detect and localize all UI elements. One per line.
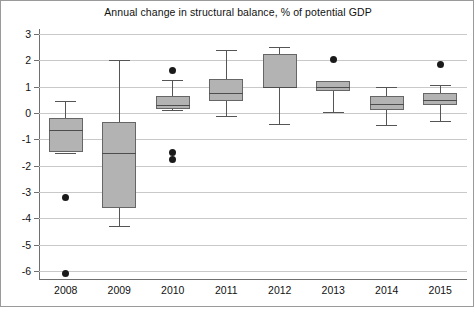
outlier-point xyxy=(169,149,176,156)
chart-title: Annual change in structural balance, % o… xyxy=(1,6,475,18)
whisker-cap-lower xyxy=(216,116,237,117)
whisker-cap-lower xyxy=(55,153,76,154)
whisker-cap-upper xyxy=(109,60,130,61)
y-tick-mark xyxy=(34,139,39,140)
whisker-cap-lower xyxy=(162,110,183,111)
box-iqr xyxy=(263,54,297,88)
outlier-point xyxy=(169,156,176,163)
y-tick-mark xyxy=(34,34,39,35)
whisker-cap-lower xyxy=(376,125,397,126)
x-tick-label-2013: 2013 xyxy=(322,284,345,296)
y-tick-mark xyxy=(34,113,39,114)
y-tick-label: 0 xyxy=(25,107,31,119)
whisker-lower xyxy=(386,110,387,124)
whisker-lower xyxy=(279,88,280,124)
whisker-upper xyxy=(119,60,120,122)
whisker-cap-upper xyxy=(269,47,290,48)
whisker-lower xyxy=(333,91,334,112)
boxplot-chart: Annual change in structural balance, % o… xyxy=(0,0,474,307)
median-line xyxy=(316,87,350,88)
median-line xyxy=(156,105,190,106)
x-tick-label-2014: 2014 xyxy=(375,284,398,296)
box-iqr xyxy=(102,122,136,208)
median-line xyxy=(102,153,136,154)
whisker-cap-lower xyxy=(430,121,451,122)
whisker-upper xyxy=(172,80,173,96)
whisker-upper xyxy=(440,85,441,93)
whisker-cap-upper xyxy=(376,87,397,88)
median-line xyxy=(370,104,404,105)
whisker-lower xyxy=(119,208,120,226)
y-tick-mark xyxy=(34,60,39,61)
box-iqr xyxy=(49,118,83,152)
y-tick-mark xyxy=(34,218,39,219)
median-line xyxy=(263,87,297,88)
box-plot-2010 xyxy=(156,34,190,271)
whisker-cap-upper xyxy=(430,85,451,86)
box-plot-2008 xyxy=(49,34,83,271)
x-tick-label-2009: 2009 xyxy=(108,284,131,296)
whisker-lower xyxy=(440,105,441,121)
median-line xyxy=(209,93,243,94)
box-plot-2013 xyxy=(316,34,350,271)
x-tick-label-2012: 2012 xyxy=(268,284,291,296)
gridline xyxy=(39,271,467,272)
whisker-cap-lower xyxy=(109,226,130,227)
y-tick-label: 1 xyxy=(25,81,31,93)
y-tick-label: -5 xyxy=(22,239,31,251)
x-tick-label-2015: 2015 xyxy=(429,284,452,296)
y-tick-label: -3 xyxy=(22,186,31,198)
y-tick-mark xyxy=(34,271,39,272)
outlier-point xyxy=(330,56,337,63)
box-plot-2009 xyxy=(102,34,136,271)
y-tick-label: 3 xyxy=(25,28,31,40)
box-plot-2011 xyxy=(209,34,243,271)
outlier-point xyxy=(169,67,176,74)
y-tick-mark xyxy=(34,166,39,167)
whisker-lower xyxy=(226,101,227,115)
y-tick-label: -2 xyxy=(22,160,31,172)
whisker-upper xyxy=(65,101,66,118)
median-line xyxy=(423,100,457,101)
y-tick-mark xyxy=(34,245,39,246)
y-tick-mark xyxy=(34,87,39,88)
whisker-upper xyxy=(386,87,387,96)
y-tick-label: -1 xyxy=(22,133,31,145)
box-plot-2015 xyxy=(423,34,457,271)
whisker-cap-upper xyxy=(162,80,183,81)
outlier-point xyxy=(437,61,444,68)
box-plot-2012 xyxy=(263,34,297,271)
outlier-point xyxy=(62,270,69,277)
x-axis-line xyxy=(39,279,467,280)
whisker-cap-lower xyxy=(323,112,344,113)
box-iqr xyxy=(209,79,243,101)
box-iqr xyxy=(156,96,190,109)
y-tick-mark xyxy=(34,192,39,193)
box-plot-2014 xyxy=(370,34,404,271)
y-tick-label: -6 xyxy=(22,265,31,277)
whisker-cap-upper xyxy=(55,101,76,102)
whisker-cap-upper xyxy=(216,50,237,51)
whisker-cap-lower xyxy=(269,124,290,125)
median-line xyxy=(49,130,83,131)
y-tick-label: -4 xyxy=(22,212,31,224)
outlier-point xyxy=(62,194,69,201)
whisker-upper xyxy=(226,50,227,79)
y-tick-label: 2 xyxy=(25,54,31,66)
plot-area: 3210-1-2-3-4-5-6 xyxy=(39,34,467,271)
x-tick-label-2008: 2008 xyxy=(54,284,77,296)
x-tick-label-2011: 2011 xyxy=(215,284,238,296)
x-tick-label-2010: 2010 xyxy=(161,284,184,296)
